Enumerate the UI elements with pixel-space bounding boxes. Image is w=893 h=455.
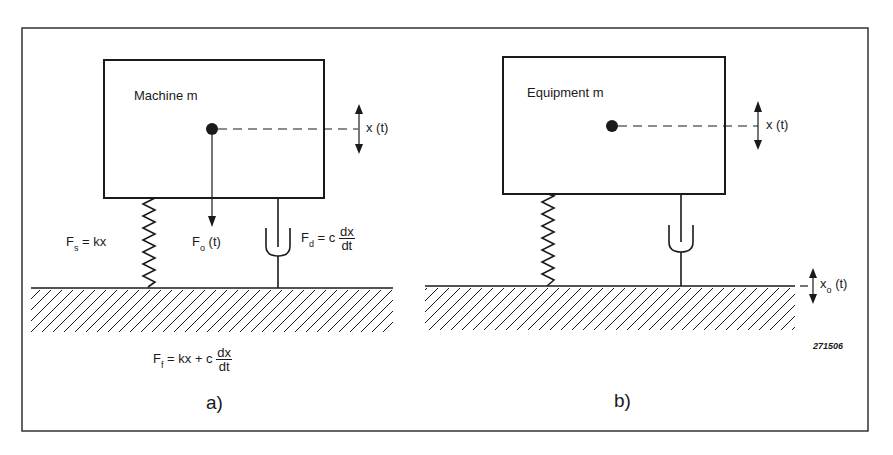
displacement-label: x (t)	[366, 120, 388, 135]
panel-b-label: b)	[614, 390, 631, 412]
applied-force-symbol: F	[192, 234, 200, 249]
diagram-canvas	[0, 0, 893, 455]
applied-force-arrow-icon	[208, 135, 216, 227]
fraction-numerator: dx	[339, 225, 355, 239]
applied-force-argument: (t)	[209, 234, 221, 249]
machine-mass-label: Machine m	[134, 88, 198, 103]
damper-icon	[669, 194, 693, 286]
spring-icon	[542, 194, 554, 286]
damper-force-fraction: dxdt	[339, 225, 355, 252]
damper-force-expression: = c	[318, 230, 336, 245]
equipment-mass-label: Equipment m	[527, 85, 604, 100]
base-motion-argument: (t)	[835, 276, 847, 291]
spring-force-expression: = kx	[82, 234, 106, 249]
panel-b	[425, 57, 817, 330]
base-motion-subscript: o	[827, 285, 832, 295]
applied-force-label: Fo (t)	[192, 234, 221, 249]
applied-force-subscript: o	[200, 243, 205, 253]
spring-force-subscript: s	[74, 243, 79, 253]
fraction-denominator: dt	[216, 360, 232, 373]
center-of-mass-dot	[206, 123, 218, 135]
panel-a-label: a)	[206, 392, 223, 414]
center-of-mass-dot	[606, 120, 618, 132]
figure-id: 271506	[813, 341, 843, 351]
spring-icon	[143, 198, 155, 287]
damper-force-symbol: F	[301, 230, 309, 245]
damper-force-label: Fd = c dxdt	[301, 225, 355, 252]
damper-icon	[266, 198, 290, 288]
foundation-force-symbol: F	[153, 351, 161, 366]
base-motion-arrow-icon	[800, 268, 817, 304]
spring-force-symbol: F	[66, 234, 74, 249]
base-motion-label: xo (t)	[820, 276, 847, 291]
fraction-denominator: dt	[339, 239, 355, 252]
ground-hatch	[425, 288, 795, 330]
panel-a	[31, 60, 393, 332]
ground-hatch	[31, 290, 393, 332]
damper-force-subscript: d	[309, 239, 314, 249]
foundation-force-expression: = kx + c	[167, 351, 213, 366]
spring-force-label: Fs = kx	[66, 234, 106, 249]
foundation-force-fraction: dxdt	[216, 346, 232, 373]
base-motion-symbol: x	[820, 276, 827, 291]
foundation-force-label: Ff = kx + c dxdt	[153, 346, 232, 373]
foundation-force-subscript: f	[161, 360, 164, 370]
displacement-label: x (t)	[766, 117, 788, 132]
fraction-numerator: dx	[216, 346, 232, 360]
